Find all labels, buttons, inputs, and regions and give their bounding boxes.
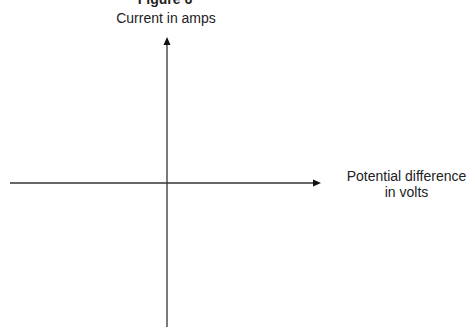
x-axis-arrow-icon [313,180,321,187]
axes-diagram [0,0,475,334]
y-axis-arrow-icon [164,37,171,45]
